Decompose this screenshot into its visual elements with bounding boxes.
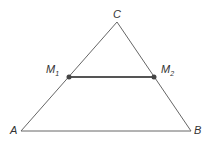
label-a: A	[9, 124, 17, 136]
label-m1: M1	[46, 63, 59, 77]
point-m2	[152, 75, 157, 80]
point-m1	[67, 75, 72, 80]
triangle-diagram: C A B M1 M2	[0, 0, 210, 150]
label-b: B	[194, 124, 201, 136]
label-c: C	[113, 8, 121, 20]
label-m2: M2	[161, 63, 174, 77]
